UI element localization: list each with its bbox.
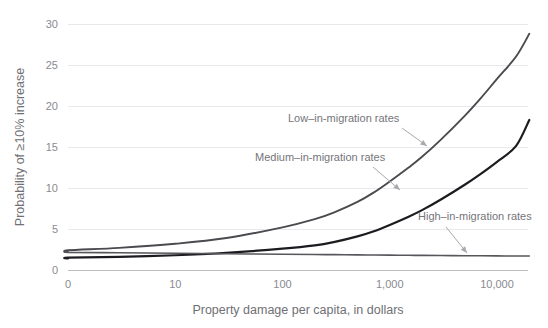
annotation-label-3: High–in-migration rates: [418, 210, 532, 222]
y-axis-tick-label: 30: [46, 18, 58, 30]
y-axis-tick-label: 10: [46, 182, 58, 194]
x-axis-tick-label: 10,000: [480, 278, 514, 290]
annotation-label-1: Low–in-migration rates: [288, 112, 400, 124]
y-axis-tick-label: 20: [46, 100, 58, 112]
y-axis-tick-label: 25: [46, 59, 58, 71]
x-axis-tick-label: 100: [273, 278, 291, 290]
y-axis-tick-label: 0: [52, 264, 58, 276]
gridlines-group: [68, 25, 528, 230]
y-axis-title: Probability of ≥10% increase: [13, 68, 27, 226]
series-lines-group: [64, 34, 529, 259]
chart-container: 051015202530 0101001,00010,000 Low–in-mi…: [0, 0, 548, 328]
y-axis-tick-label: 5: [52, 223, 58, 235]
x-axis-tick-label: 0: [65, 278, 71, 290]
x-axis-tick-label: 1,000: [376, 278, 404, 290]
annotation-arrowhead-3: [461, 246, 467, 253]
y-axis-tick-labels: 051015202530: [46, 18, 58, 276]
series-line-2: [64, 120, 529, 259]
annotation-label-2: Medium–in-migration rates: [255, 151, 386, 163]
x-axis-tick-labels: 0101001,00010,000: [65, 278, 514, 290]
x-axis-tick-label: 10: [169, 278, 181, 290]
annotation-arrowhead-1: [420, 140, 427, 146]
x-axis-title: Property damage per capita, in dollars: [192, 303, 403, 317]
probability-line-chart: 051015202530 0101001,00010,000 Low–in-mi…: [0, 0, 548, 328]
y-axis-tick-label: 15: [46, 141, 58, 153]
annotations-group: Low–in-migration ratesMedium–in-migratio…: [255, 112, 532, 253]
